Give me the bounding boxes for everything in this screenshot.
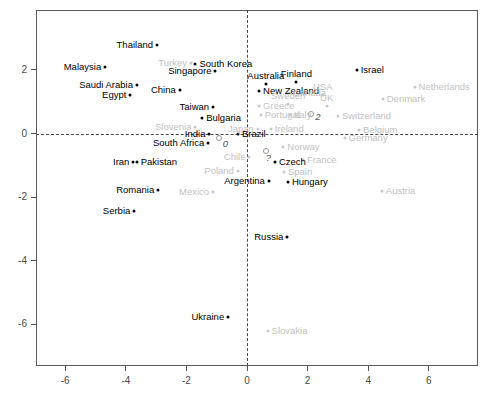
x-tick-mark	[307, 366, 308, 371]
point-label: Sweden	[271, 91, 305, 101]
point-label: Romania	[116, 185, 154, 195]
data-point	[227, 316, 230, 319]
point-label: Brazil	[242, 129, 266, 139]
point-label: UK	[320, 93, 333, 103]
x-tick-mark	[368, 366, 369, 371]
point-label: Malaysia	[64, 63, 102, 73]
data-point	[212, 106, 215, 109]
data-point	[212, 191, 215, 194]
point-label: Norway	[287, 142, 319, 152]
point-label: Finland	[281, 69, 312, 79]
data-point	[380, 189, 383, 192]
y-tick-mark	[31, 69, 36, 70]
x-tick-label: 2	[288, 375, 328, 386]
point-label: Italy	[294, 111, 311, 121]
unlabeled-data-point	[216, 135, 222, 141]
x-tick-mark	[125, 366, 126, 371]
point-label: Netherlands	[419, 82, 470, 92]
point-label: Serbia	[103, 207, 130, 217]
x-tick-label: 0	[227, 375, 267, 386]
data-point	[135, 161, 138, 164]
point-label: France	[307, 155, 337, 165]
point-label: Taiwan	[179, 102, 209, 112]
point-label: Hungary	[292, 177, 328, 187]
y-tick-label: -2	[0, 191, 27, 202]
point-label: Mexico	[179, 187, 209, 197]
data-point	[136, 84, 139, 87]
point-label: Egypt	[102, 90, 126, 100]
point-label: China	[151, 86, 176, 96]
data-point	[157, 189, 160, 192]
y-tick-label: -4	[0, 255, 27, 266]
annotation-text: ?	[266, 154, 271, 164]
point-label: Austria	[386, 186, 416, 196]
data-point	[104, 66, 107, 69]
data-point	[129, 93, 132, 96]
point-label: Russia	[254, 232, 283, 242]
data-point	[207, 142, 210, 145]
data-point	[413, 86, 416, 89]
data-point	[358, 128, 361, 131]
data-point	[248, 155, 251, 158]
data-point	[266, 330, 269, 333]
data-point	[267, 180, 270, 183]
x-tick-label: 4	[348, 375, 388, 386]
point-label: Ukraine	[191, 313, 224, 323]
scatter-plot-figure: -6-4-20246 20-2-4-6 ThailandMalaysiaTurk…	[0, 0, 498, 405]
data-point	[269, 128, 272, 131]
annotation-text: 0	[223, 139, 228, 149]
point-label: Czech	[279, 157, 306, 167]
data-point	[258, 90, 261, 93]
y-tick-label: 2	[0, 64, 27, 75]
y-tick-mark	[31, 133, 36, 134]
y-tick-mark	[31, 324, 36, 325]
data-point	[355, 68, 358, 71]
data-point	[286, 180, 289, 183]
data-point	[214, 70, 217, 73]
point-label: Bulgaria	[206, 113, 241, 123]
point-label: Ireland	[275, 125, 304, 135]
data-point	[381, 98, 384, 101]
data-point	[336, 115, 339, 118]
data-point	[295, 80, 298, 83]
x-tick-mark	[186, 366, 187, 371]
point-label: Chile	[224, 152, 246, 162]
point-label: Australia	[247, 71, 284, 81]
data-point	[258, 104, 261, 107]
data-point	[156, 44, 159, 47]
data-point	[236, 169, 239, 172]
x-tick-mark	[428, 366, 429, 371]
x-tick-label: -4	[106, 375, 146, 386]
point-label: Argentina	[224, 176, 265, 186]
point-label: USA	[313, 82, 333, 92]
point-label: Poland	[204, 166, 234, 176]
point-label: Switzerland	[342, 112, 391, 122]
x-tick-label: -2	[166, 375, 206, 386]
y-tick-label: 0	[0, 128, 27, 139]
data-point	[273, 161, 276, 164]
data-point	[208, 133, 211, 136]
x-tick-mark	[247, 366, 248, 371]
data-point	[282, 171, 285, 174]
y-tick-mark	[31, 260, 36, 261]
point-label: Iran	[113, 158, 129, 168]
data-point	[133, 210, 136, 213]
point-label: Singapore	[168, 67, 211, 77]
data-point	[201, 116, 204, 119]
y-tick-label: -6	[0, 318, 27, 329]
point-label: Thailand	[117, 40, 153, 50]
point-label: Slovakia	[272, 327, 308, 337]
data-point	[343, 136, 346, 139]
annotation-text: 2	[315, 112, 320, 122]
data-point	[325, 104, 328, 107]
point-label: Germany	[349, 133, 388, 143]
data-point	[178, 89, 181, 92]
data-point	[259, 114, 262, 117]
x-tick-mark	[65, 366, 66, 371]
point-label: Denmark	[387, 95, 426, 105]
x-tick-label: -6	[45, 375, 85, 386]
x-tick-label: 6	[409, 375, 449, 386]
data-point	[282, 145, 285, 148]
point-label: South Africa	[153, 138, 204, 148]
point-label: Israel	[361, 65, 384, 75]
